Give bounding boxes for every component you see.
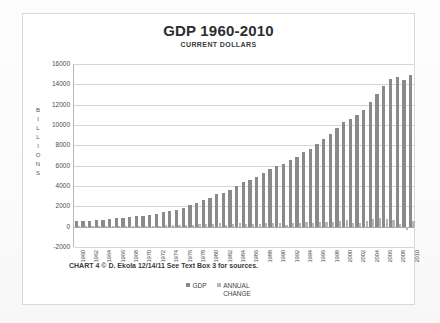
- bar-gdp: [355, 115, 358, 227]
- y-axis-tick-label: 8000: [30, 141, 70, 148]
- bar-annual-change: [245, 224, 247, 227]
- bar-gdp: [275, 166, 278, 227]
- x-axis-tick-label: 1984: [240, 250, 246, 263]
- x-axis-tick-label: 1966: [120, 250, 126, 263]
- bar-annual-change: [272, 223, 274, 227]
- x-axis-tick-label: 1996: [320, 250, 326, 263]
- bar-annual-change: [178, 225, 180, 226]
- bar-gdp: [329, 134, 332, 226]
- bar-gdp: [268, 169, 271, 227]
- bar-gdp: [382, 86, 385, 227]
- bar-gdp: [235, 186, 238, 227]
- bar-gdp: [389, 79, 392, 226]
- gridline: [74, 247, 414, 248]
- x-axis-tick-label: 1980: [213, 250, 219, 263]
- y-axis-tick-label: 6000: [30, 162, 70, 169]
- x-axis-tick-label: 1982: [227, 250, 233, 263]
- y-axis-tick-label: 14000: [30, 80, 70, 87]
- bar-annual-change: [259, 224, 261, 227]
- legend-item[interactable]: GDP: [186, 282, 207, 290]
- bar-gdp: [302, 152, 305, 226]
- bar-annual-change: [212, 224, 214, 226]
- bar-gdp: [141, 216, 144, 227]
- x-axis-tick-label: 2004: [374, 250, 380, 263]
- bar-annual-change: [172, 225, 174, 226]
- bar-gdp: [295, 157, 298, 227]
- bar-annual-change: [205, 224, 207, 227]
- bar-annual-change: [299, 223, 301, 226]
- bar-series-group: [74, 64, 414, 247]
- bar-annual-change: [219, 223, 221, 227]
- bar-gdp: [255, 177, 258, 227]
- x-axis-tick-label: 2006: [387, 250, 393, 263]
- bar-annual-change: [198, 224, 200, 227]
- bar-annual-change: [112, 226, 114, 227]
- bar-gdp: [402, 80, 405, 227]
- bar-annual-change: [366, 221, 368, 226]
- y-axis-tick-label: -2000: [30, 243, 70, 250]
- bar-annual-change: [399, 224, 401, 226]
- bar-annual-change: [145, 226, 147, 227]
- x-axis-tick-label: 1964: [106, 250, 112, 263]
- bar-annual-change: [232, 224, 234, 227]
- x-axis-tick-label: 1960: [80, 250, 86, 263]
- bar-annual-change: [332, 222, 334, 227]
- bar-gdp: [168, 211, 171, 227]
- x-axis-tick-label: 1978: [200, 250, 206, 263]
- bar-gdp: [202, 200, 205, 227]
- x-axis-tick-label: 2010: [414, 250, 420, 263]
- chart-legend: GDPANNUAL CHANGE: [23, 282, 414, 298]
- bar-gdp: [262, 173, 265, 226]
- x-axis-tick-label: 1990: [280, 250, 286, 263]
- x-axis-tick-label: 2002: [360, 250, 366, 263]
- legend-swatch-icon: [217, 283, 221, 287]
- x-axis-tick-label: 1970: [146, 250, 152, 263]
- bar-gdp: [342, 122, 345, 227]
- legend-label: GDP: [193, 282, 207, 290]
- bar-gdp: [228, 190, 231, 227]
- y-axis-tick-label: 2000: [30, 202, 70, 209]
- bar-annual-change: [252, 224, 254, 226]
- bar-gdp: [375, 94, 378, 227]
- y-axis-tick-label: 10000: [30, 121, 70, 128]
- x-axis-tick-label: 2000: [347, 250, 353, 263]
- legend-label: ANNUAL CHANGE: [223, 282, 251, 298]
- bar-annual-change: [352, 223, 354, 226]
- bar-annual-change: [346, 220, 348, 226]
- bar-annual-change: [138, 226, 140, 227]
- legend-item[interactable]: ANNUAL CHANGE: [217, 282, 251, 298]
- bar-annual-change: [359, 223, 361, 227]
- bar-gdp: [315, 144, 318, 226]
- x-axis-tick-label: 1986: [253, 250, 259, 263]
- bar-annual-change: [239, 223, 241, 227]
- x-axis-tick-label: 1992: [294, 250, 300, 263]
- bar-gdp: [215, 194, 218, 227]
- y-axis-title-letter: S: [32, 169, 44, 178]
- bar-annual-change: [392, 220, 394, 226]
- bar-gdp: [282, 164, 285, 227]
- y-axis-tick-label: 4000: [30, 182, 70, 189]
- bar-annual-change: [372, 219, 374, 227]
- bar-annual-change: [165, 225, 167, 226]
- bar-annual-change: [292, 223, 294, 227]
- chart-container: GDP 1960-2010 CURRENT DOLLARS BILLIONS 1…: [22, 13, 415, 305]
- bar-gdp: [335, 128, 338, 226]
- bar-gdp: [349, 119, 352, 227]
- bar-annual-change: [319, 222, 321, 226]
- x-axis-tick-label: 1976: [187, 250, 193, 263]
- bar-annual-change: [412, 221, 414, 226]
- chart-subtitle: CURRENT DOLLARS: [23, 41, 414, 48]
- bar-annual-change: [339, 221, 341, 227]
- bar-annual-change: [132, 226, 134, 227]
- bar-gdp: [362, 110, 365, 227]
- y-axis-title-letter: O: [32, 151, 44, 160]
- x-axis-tick-label: 1994: [307, 250, 313, 263]
- chart-title: GDP 1960-2010: [23, 22, 414, 39]
- x-axis-tick-label: 1988: [267, 250, 273, 263]
- bar-gdp: [309, 149, 312, 227]
- bar-annual-change: [192, 225, 194, 227]
- x-axis-tick-label: 1962: [93, 250, 99, 263]
- bar-annual-change: [185, 225, 187, 227]
- bar-gdp: [208, 198, 211, 227]
- y-axis-tick-label: 12000: [30, 101, 70, 108]
